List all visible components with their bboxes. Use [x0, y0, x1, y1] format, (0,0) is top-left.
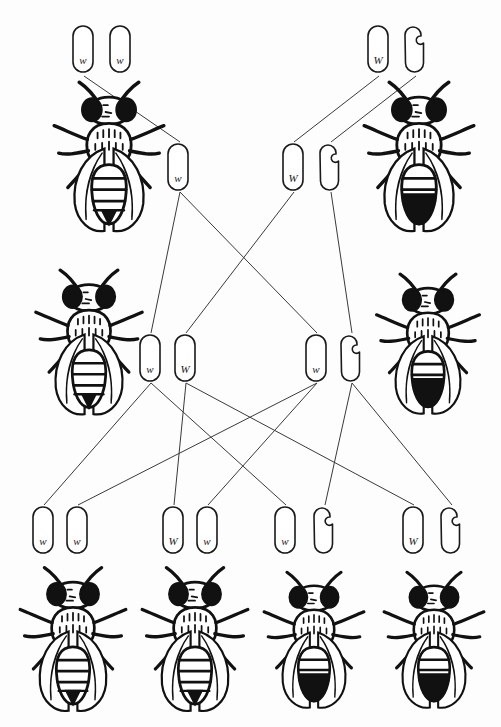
x-chromosome: W [280, 142, 306, 192]
x-chromosome-shape [280, 142, 306, 192]
x-chromosome: W [160, 505, 186, 555]
y-chromosome-shape [317, 142, 343, 192]
x-chromosome-shape [160, 505, 186, 555]
y-chromosome [317, 142, 343, 192]
x-chromosome: w [70, 24, 96, 74]
y-chromosome-shape [438, 505, 464, 555]
x-chromosome-shape [107, 24, 133, 74]
x-chromosome-shape [365, 24, 391, 74]
x-chromosome-shape [303, 333, 329, 383]
x-chromosome-shape [70, 24, 96, 74]
x-chromosome-shape [194, 505, 220, 555]
x-chromosome: W [365, 24, 391, 74]
y-chromosome [402, 24, 428, 74]
x-chromosome-shape [272, 505, 298, 555]
x-chromosome: w [137, 333, 163, 383]
y-chromosome-shape [338, 333, 364, 383]
chromosome-layer: wwWwWwWwwwWwwW [0, 0, 501, 727]
x-chromosome-shape [30, 505, 56, 555]
y-chromosome-shape [311, 505, 337, 555]
x-chromosome: w [303, 333, 329, 383]
genetics-cross-diagram: wwWwWwWwwwWwwW [0, 0, 501, 727]
x-chromosome: w [194, 505, 220, 555]
x-chromosome: W [172, 333, 198, 383]
x-chromosome-shape [172, 333, 198, 383]
x-chromosome: w [272, 505, 298, 555]
y-chromosome-shape [402, 24, 428, 74]
y-chromosome [338, 333, 364, 383]
x-chromosome: W [400, 505, 426, 555]
y-chromosome [311, 505, 337, 555]
x-chromosome: w [165, 142, 191, 192]
x-chromosome-shape [64, 505, 90, 555]
x-chromosome: w [107, 24, 133, 74]
x-chromosome-shape [137, 333, 163, 383]
x-chromosome: w [64, 505, 90, 555]
x-chromosome-shape [400, 505, 426, 555]
x-chromosome-shape [165, 142, 191, 192]
x-chromosome: w [30, 505, 56, 555]
y-chromosome [438, 505, 464, 555]
